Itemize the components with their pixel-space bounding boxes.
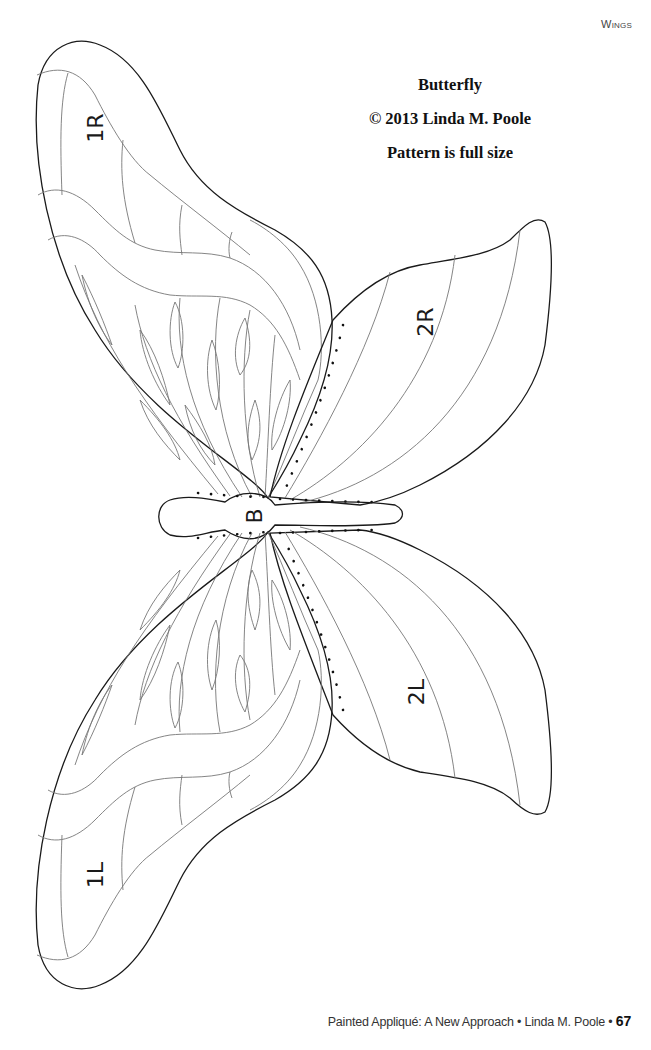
label-2l: 2L: [404, 678, 429, 705]
butterfly-pattern: 1R 2R B 2L: [0, 0, 651, 1050]
footer-text: Painted Appliqué: A New Approach • Linda…: [328, 1015, 616, 1029]
wing-2l: 2L: [270, 527, 551, 814]
label-b: B: [242, 508, 267, 523]
label-2r: 2R: [413, 307, 438, 336]
wing-1r: 1R: [36, 41, 332, 498]
page-footer: Painted Appliqué: A New Approach • Linda…: [328, 1013, 631, 1029]
wing-2r: 2R: [270, 220, 551, 505]
page-number: 67: [616, 1013, 631, 1029]
label-1l: 1L: [83, 861, 108, 888]
wing-1l: 1L: [36, 532, 332, 989]
label-1r: 1R: [83, 113, 108, 142]
